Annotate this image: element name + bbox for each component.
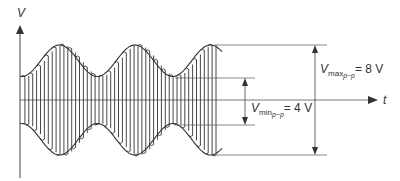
vmax-label: Vmaxp−p= 8 V: [320, 62, 383, 76]
vmin-symbol: V: [251, 101, 259, 115]
v-axis-arrow-icon: [16, 25, 24, 34]
envelope-bottom: [20, 124, 222, 156]
vmin-subsubscript: p−p: [272, 111, 284, 118]
vmin-arrow-up-icon: [242, 78, 248, 86]
v-axis-label: V: [17, 6, 25, 20]
envelope-top: [20, 45, 222, 77]
t-axis-arrow-icon: [368, 96, 378, 104]
vmax-subscript: max: [328, 69, 343, 78]
vmin-arrow-down-icon: [242, 117, 248, 125]
vmax-subsubscript: p−p: [343, 72, 355, 79]
am-waveform-diagram: [0, 0, 400, 181]
vmin-label: Vminp−p= 4 V: [251, 101, 312, 115]
vmax-value: = 8 V: [355, 62, 383, 76]
t-axis-label: t: [383, 93, 386, 107]
vmax-arrow-up-icon: [312, 45, 318, 53]
vmax-symbol: V: [320, 62, 328, 76]
vmin-value: = 4 V: [284, 101, 312, 115]
vmax-arrow-down-icon: [312, 147, 318, 155]
vmin-subscript: min: [259, 108, 272, 117]
